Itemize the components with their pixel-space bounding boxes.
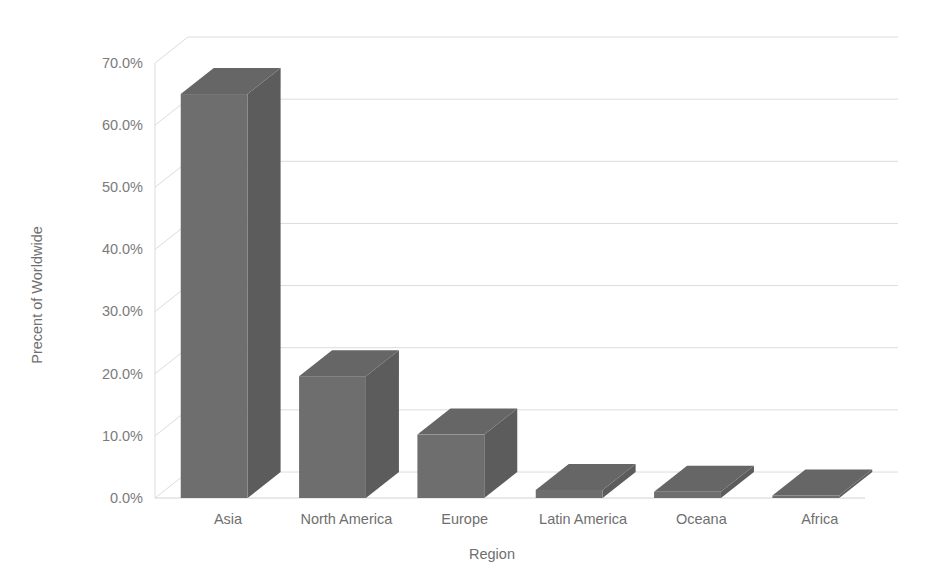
x-axis-category-label: North America [300,511,393,527]
y-axis-tick-label: 60.0% [102,117,143,133]
bar-chart-3d: 70.0%60.0%50.0%40.0%30.0%20.0%10.0%0.0% … [0,0,937,588]
bar-asia [181,68,281,498]
x-axis-title: Region [469,546,515,562]
bar-front-face [654,492,721,498]
bar-front-face [417,435,484,498]
y-axis-tick-label: 70.0% [102,55,143,71]
x-axis-category-label: Latin America [539,511,628,527]
x-axis-category-label: Oceana [676,511,728,527]
bar-front-face [299,376,366,498]
bar-side-face [248,68,281,498]
y-axis-tick-label: 0.0% [110,490,143,506]
x-axis-category-label: Asia [214,511,243,527]
y-axis-tick-label: 20.0% [102,366,143,382]
bar-side-face [366,350,399,498]
x-axis-category-label: Africa [801,511,839,527]
chart-container: 70.0%60.0%50.0%40.0%30.0%20.0%10.0%0.0% … [0,0,937,588]
bar-front-face [772,496,839,498]
bar-front-face [536,490,603,498]
y-axis-tick-label: 40.0% [102,241,143,257]
y-axis-tick-label: 50.0% [102,179,143,195]
bar-front-face [181,94,248,498]
x-axis-category-label: Europe [441,511,488,527]
y-axis-title: Precent of Worldwide [29,226,45,364]
y-axis-tick-label: 30.0% [102,303,143,319]
y-axis-tick-label: 10.0% [102,428,143,444]
bar-north-america [299,350,399,498]
